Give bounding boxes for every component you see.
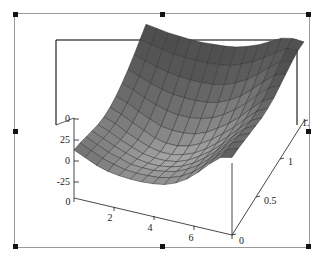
resize-handle-middle-right[interactable] [306, 129, 311, 134]
figure-root: 0 25 0 -25 0 2 4 6 0 0.5 1 1. [0, 0, 325, 263]
resize-handle-top-center[interactable] [160, 12, 165, 17]
resize-handle-bottom-right[interactable] [306, 244, 311, 249]
resize-handle-top-right[interactable] [306, 12, 311, 17]
resize-handle-bottom-center[interactable] [160, 244, 165, 249]
resize-handle-bottom-left[interactable] [13, 244, 18, 249]
resize-handle-top-left[interactable] [13, 12, 18, 17]
selection-bounding-box[interactable] [14, 13, 310, 248]
resize-handle-middle-left[interactable] [13, 129, 18, 134]
